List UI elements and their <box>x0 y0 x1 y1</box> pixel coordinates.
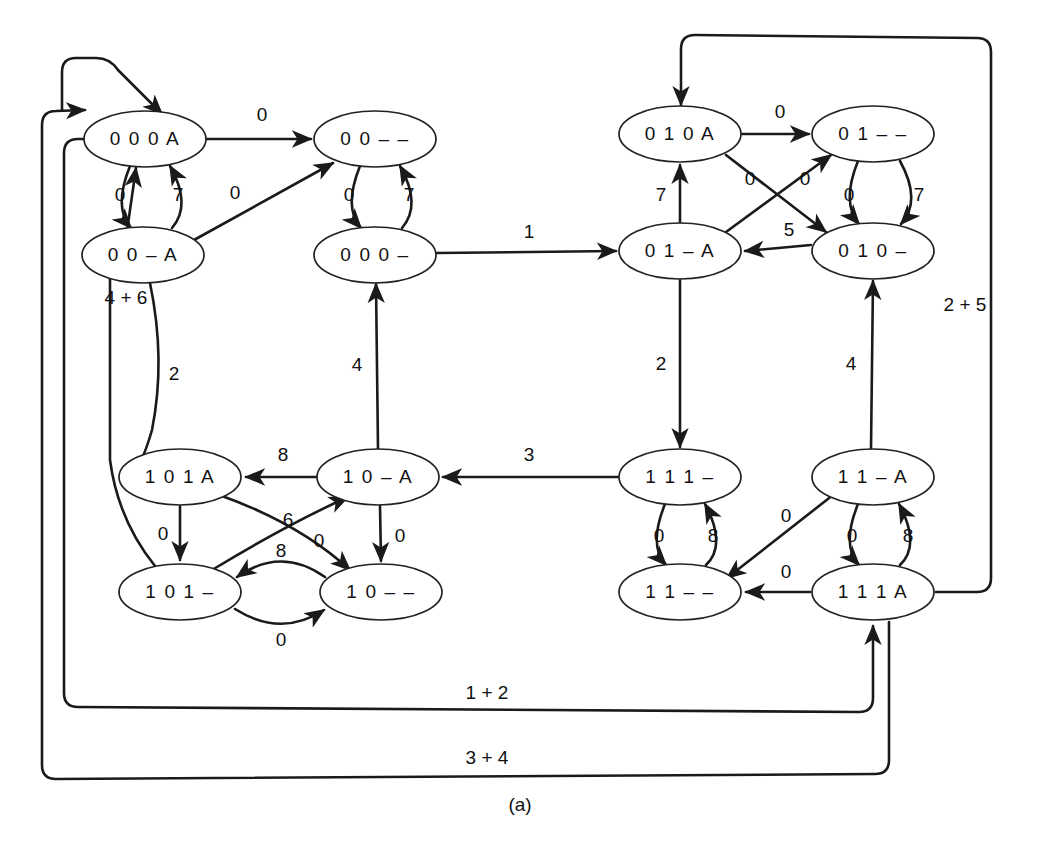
edge-label-00-A-to-101A: 2 <box>169 363 180 384</box>
state-node-010-[interactable]: 0 1 0 – <box>812 223 934 279</box>
state-node-101-[interactable]: 1 0 1 – <box>119 564 241 620</box>
state-label-000-: 0 0 0 – <box>340 244 409 265</box>
state-node-00--[interactable]: 0 0 – – <box>314 111 436 167</box>
edge-label-11-A-to-010-: 4 <box>846 353 857 374</box>
edge-101dash-to-10dashdash-0 <box>235 609 324 624</box>
edge-label-11-A-to-111A: 0 <box>847 525 858 546</box>
state-node-010A[interactable]: 0 1 0 A <box>619 106 741 162</box>
state-label-10--: 1 0 – – <box>346 581 415 602</box>
edge-label-000A-to-00--: 0 <box>257 104 268 125</box>
edge-label-01-A-to-111-: 2 <box>656 353 667 374</box>
state-node-11--[interactable]: 1 1 – – <box>619 564 741 620</box>
edge-label-111--to-10-A: 3 <box>524 444 535 465</box>
edge-label-10-A-to-000-: 4 <box>352 354 363 375</box>
edge-010dash-to-01dashA <box>745 245 811 251</box>
state-label-11-A: 1 1 – A <box>838 466 908 487</box>
state-label-01-A: 0 1 – A <box>645 240 715 261</box>
edge-label-10---to-101-: 8 <box>276 540 287 561</box>
state-node-111A[interactable]: 1 1 1 A <box>812 564 934 620</box>
edge-00dashA-to-00dashdash <box>194 163 333 240</box>
state-label-01--: 0 1 – – <box>838 123 907 144</box>
state-label-111-: 1 1 1 – <box>645 466 714 487</box>
edge-label-000--to-01-A: 1 <box>524 221 535 242</box>
edge-label-111A-to-11--: 0 <box>781 561 792 582</box>
edge-00dashA-to-101A <box>127 283 159 479</box>
figure-caption: (a) <box>508 794 531 815</box>
state-label-101A: 1 0 1 A <box>145 466 215 487</box>
state-label-000A: 0 0 0 A <box>110 128 180 149</box>
edge-label-111A-to-010A: 2 + 5 <box>944 294 987 315</box>
state-transition-diagram: 0 0 0 A0 0 – –0 0 – A0 0 0 –0 1 0 A0 1 –… <box>0 0 1040 851</box>
state-node-10--[interactable]: 1 0 – – <box>320 564 442 620</box>
edge-10dashA-to-000dash <box>376 284 378 449</box>
edge-label-010A-to-01--: 0 <box>775 101 786 122</box>
edge-label-11-A-to-11--: 0 <box>781 505 792 526</box>
state-node-10-A[interactable]: 1 0 – A <box>317 449 439 505</box>
state-label-010-: 0 1 0 – <box>838 240 907 261</box>
edge-label-000--to-00--: 7 <box>404 184 415 205</box>
edge-label-10-A-to-101A: 8 <box>278 444 289 465</box>
edge-label-00-A-to-00--: 0 <box>230 182 241 203</box>
state-node-111-[interactable]: 1 1 1 – <box>619 449 741 505</box>
state-node-000-[interactable]: 0 0 0 – <box>314 227 436 283</box>
state-label-010A: 0 1 0 A <box>645 123 715 144</box>
state-label-00--: 0 0 – – <box>340 128 409 149</box>
state-node-11-A[interactable]: 1 1 – A <box>812 449 934 505</box>
edge-label-01-A-to-010A: 7 <box>656 184 667 205</box>
state-node-01-A[interactable]: 0 1 – A <box>619 223 741 279</box>
state-label-00-A: 0 0 – A <box>108 244 178 265</box>
edge-label-000A-to-00-A: 0 <box>115 184 126 205</box>
state-node-101A[interactable]: 1 0 1 A <box>119 449 241 505</box>
edge-11dashA-to-010dash <box>871 281 873 449</box>
state-node-000A[interactable]: 0 0 0 A <box>84 111 206 167</box>
edge-label-10-A-to-10--: 0 <box>395 525 406 546</box>
edge-label-10-A-to-101-: 6 <box>283 509 294 530</box>
edge-label-00-A-to-000A: 7 <box>173 184 184 205</box>
edge-000A-to-111A <box>64 139 873 712</box>
edge-label-101--to-000A: 4 + 6 <box>105 287 148 308</box>
edge-label-101A-to-10--: 0 <box>314 530 325 551</box>
edge-label-111--to-11--: 0 <box>654 525 665 546</box>
edge-10dashA-to-10dashdash <box>380 506 381 561</box>
edge-label-111A-to-000A: 3 + 4 <box>466 747 509 768</box>
edge-initial-entry <box>62 58 162 114</box>
edge-000dash-to-01dashA <box>437 251 616 253</box>
edge-label-11---to-111-: 8 <box>708 525 719 546</box>
edge-10dashdash-to-101dash-8 <box>237 562 325 578</box>
edge-label-101A-to-101-: 0 <box>158 523 169 544</box>
edge-label-101--to-10--: 0 <box>276 629 287 650</box>
edge-label-010--to-01--: 0 <box>844 184 855 205</box>
edge-label-111A-to-11-A: 8 <box>903 525 914 546</box>
edge-label-00---to-000-: 0 <box>344 184 355 205</box>
edge-label-010A-to-010-: 0 <box>745 168 756 189</box>
state-label-10-A: 1 0 – A <box>343 466 413 487</box>
edge-label-layer: 0070071424 + 6000770524380060800800802 +… <box>105 101 987 768</box>
state-label-11--: 1 1 – – <box>645 581 714 602</box>
edge-label-01---to-010-: 7 <box>914 184 925 205</box>
state-node-00-A[interactable]: 0 0 – A <box>82 227 204 283</box>
edge-label-000A-to-111A: 1 + 2 <box>466 682 509 703</box>
edge-label-01-A-to-01--: 0 <box>800 168 811 189</box>
state-label-111A: 1 1 1 A <box>838 581 908 602</box>
figure-canvas: 0 0 0 A0 0 – –0 0 – A0 0 0 –0 1 0 A0 1 –… <box>0 0 1040 851</box>
state-node-01--[interactable]: 0 1 – – <box>812 106 934 162</box>
edge-111A-to-000A <box>42 110 889 779</box>
edge-label-010--to-01-A: 5 <box>784 219 795 240</box>
state-label-101-: 1 0 1 – <box>145 581 214 602</box>
edge-010dash-to-01dashdash-7 <box>900 161 911 224</box>
